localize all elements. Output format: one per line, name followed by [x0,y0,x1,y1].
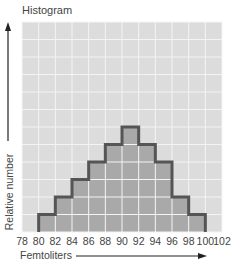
x-tick-label: 84 [66,235,78,247]
x-tick-label: 88 [99,235,111,247]
x-tick-label: 94 [149,235,161,247]
x-tick-label: 102 [213,235,231,247]
x-tick-label: 80 [33,235,45,247]
x-tick-label: 98 [183,235,195,247]
x-tick-label: 96 [166,235,178,247]
histogram-chart: 7880828486889092949698100102 [0,0,234,262]
x-tick-label: 82 [49,235,61,247]
x-tick-labels: 7880828486889092949698100102 [16,235,231,247]
x-tick-label: 90 [116,235,128,247]
x-tick-label: 92 [133,235,145,247]
y-axis-arrow-icon [5,22,11,141]
x-tick-label: 86 [83,235,95,247]
x-axis-arrow-icon [76,253,207,259]
x-tick-label: 100 [197,235,215,247]
x-tick-label: 78 [16,235,28,247]
